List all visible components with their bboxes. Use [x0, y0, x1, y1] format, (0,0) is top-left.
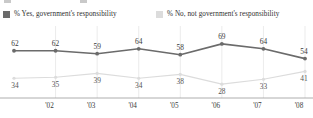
- data-point[interactable]: [220, 83, 223, 86]
- legend-swatch-yes-icon: [3, 11, 10, 18]
- data-point[interactable]: [96, 72, 99, 75]
- chart-legend: % Yes, government's responsibility % No,…: [0, 7, 313, 21]
- data-point[interactable]: [12, 77, 15, 80]
- value-label: 69: [218, 32, 225, 41]
- value-label: 38: [177, 77, 184, 86]
- legend-label-yes: % Yes, government's responsibility: [14, 10, 117, 19]
- legend-item-yes[interactable]: % Yes, government's responsibility: [3, 7, 117, 21]
- plot-area: 62625964586964543435393438283341'02'03'0…: [0, 24, 313, 118]
- legend-swatch-no-icon: [156, 11, 163, 18]
- data-point[interactable]: [137, 77, 140, 80]
- data-point[interactable]: [220, 42, 224, 46]
- data-point[interactable]: [303, 70, 306, 73]
- value-label: 64: [135, 37, 142, 46]
- line-chart: % Yes, government's responsibility % No,…: [0, 0, 313, 118]
- value-label: 28: [218, 87, 225, 96]
- x-tick-label: '07: [253, 102, 261, 111]
- value-label: 34: [135, 81, 142, 90]
- value-label: 54: [300, 47, 307, 56]
- data-point[interactable]: [179, 73, 182, 76]
- data-point[interactable]: [54, 49, 58, 53]
- cropped-content-sliver: [0, 0, 313, 4]
- value-label: 62: [11, 39, 18, 48]
- data-point[interactable]: [262, 47, 266, 51]
- data-point[interactable]: [12, 49, 16, 53]
- value-label: 59: [93, 42, 100, 51]
- value-label: 62: [52, 39, 59, 48]
- sliver-mark-right: [80, 0, 87, 3]
- data-point[interactable]: [178, 53, 182, 57]
- value-label: 58: [177, 43, 184, 52]
- data-point[interactable]: [137, 47, 141, 51]
- x-tick-label: '05: [170, 102, 178, 111]
- x-tick-label: '06: [212, 102, 220, 111]
- x-tick-label: '08: [295, 102, 303, 111]
- x-tick-label: '04: [128, 102, 136, 111]
- value-label: 41: [300, 74, 307, 83]
- legend-label-no: % No, not government's responsibility: [167, 10, 279, 19]
- x-tick-label: '02: [45, 102, 53, 111]
- value-label: 64: [260, 37, 267, 46]
- value-label: 39: [93, 76, 100, 85]
- value-label: 35: [52, 80, 59, 89]
- data-point[interactable]: [303, 57, 307, 61]
- data-point[interactable]: [95, 52, 99, 56]
- data-point[interactable]: [262, 78, 265, 81]
- value-label: 33: [260, 82, 267, 91]
- legend-item-no[interactable]: % No, not government's responsibility: [156, 7, 279, 21]
- sliver-mark-left: [4, 0, 11, 3]
- data-point[interactable]: [54, 76, 57, 79]
- value-label: 34: [11, 81, 18, 90]
- x-tick-label: '03: [87, 102, 95, 111]
